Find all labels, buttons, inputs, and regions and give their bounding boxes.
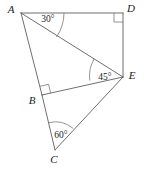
vertex-label-b: B bbox=[29, 94, 36, 106]
vertex-label-d: D bbox=[126, 2, 135, 14]
vertex-label-e: E bbox=[128, 69, 136, 81]
angle-arc-c bbox=[49, 122, 74, 129]
vertex-labels-group: A D E B C bbox=[7, 2, 136, 165]
right-angle-d-icon bbox=[114, 13, 123, 22]
geometry-figure: 30° 45° 60° A D E B C bbox=[0, 0, 144, 169]
segment-AE bbox=[21, 13, 123, 77]
angle-label-e: 45° bbox=[98, 72, 112, 82]
geometry-canvas: 30° 45° 60° A D E B C bbox=[0, 0, 144, 169]
angle-arc-e bbox=[89, 59, 94, 81]
angle-label-c: 60° bbox=[54, 130, 68, 140]
vertex-label-a: A bbox=[7, 3, 15, 15]
angle-label-a: 30° bbox=[41, 14, 55, 24]
vertex-label-c: C bbox=[50, 153, 58, 165]
segment-AB bbox=[21, 13, 42, 95]
angle-arc-a bbox=[57, 13, 65, 37]
angle-arcs-group bbox=[49, 13, 95, 129]
